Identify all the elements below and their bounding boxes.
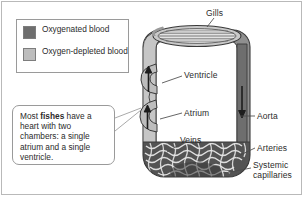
label-systemic-capillaries: Systemic capillaries [253, 160, 305, 180]
legend-label-oxygenated: Oxygenated blood [42, 25, 109, 35]
systemic-capillaries-bed [143, 142, 250, 182]
label-atrium: Atrium [184, 108, 209, 118]
legend-item-oxygenated: Oxygenated blood [23, 25, 109, 39]
gills-structure [152, 26, 241, 47]
legend-label-oxygen-depleted: Oxygen-depleted blood [42, 47, 128, 57]
oxygenated-blood-swatch [23, 26, 36, 39]
label-ventricle: Ventricle [184, 70, 218, 80]
callout-box: Most fishes have a heart with two chambe… [12, 105, 115, 165]
label-veins: Veins [180, 135, 201, 145]
figure-container: Oxygenated blood Oxygen-depleted blood M… [0, 0, 305, 198]
legend: Oxygenated blood Oxygen-depleted blood [16, 19, 129, 73]
label-aorta: Aorta [257, 111, 278, 121]
callout-text-before: Most [20, 111, 40, 121]
label-arteries: Arteries [257, 143, 287, 153]
label-gills: Gills [206, 8, 223, 18]
oxygen-depleted-blood-swatch [23, 48, 36, 61]
callout-text-bold: fishes [40, 111, 64, 121]
callout-text: Most fishes have a heart with two chambe… [20, 111, 112, 162]
legend-item-oxygen-depleted: Oxygen-depleted blood [23, 47, 128, 61]
